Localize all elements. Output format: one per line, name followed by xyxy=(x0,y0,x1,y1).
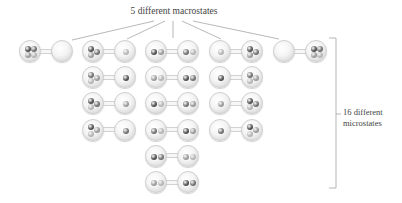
microstate-dumbbell xyxy=(209,66,263,88)
particle-mid-light xyxy=(94,75,100,81)
particle-mid-light xyxy=(158,49,164,55)
particle-light xyxy=(218,49,224,55)
particle-mid-light xyxy=(151,75,157,81)
particle-light xyxy=(158,101,164,107)
filled-left-sphere xyxy=(19,40,41,62)
particle-mid-dark xyxy=(253,49,259,55)
particle-mid-light xyxy=(253,75,259,81)
particle-light xyxy=(247,131,253,137)
particle-mid-light xyxy=(88,52,94,58)
filled-right-sphere xyxy=(177,145,199,167)
particle-light xyxy=(31,52,37,58)
particle-mid-light xyxy=(253,127,259,133)
particle-mid-light xyxy=(190,101,196,107)
filled-left-sphere xyxy=(82,40,104,62)
particle-mid-dark xyxy=(183,49,189,55)
particle-mid-dark xyxy=(183,101,189,107)
particle-mid-dark xyxy=(158,154,164,160)
microstates-bracket xyxy=(329,38,336,188)
filled-left-sphere xyxy=(145,171,167,193)
particle-light xyxy=(247,78,253,84)
particle-mid-dark xyxy=(123,128,129,134)
filled-left-sphere xyxy=(145,40,167,62)
microstate-dumbbell xyxy=(145,92,199,114)
particle-light xyxy=(247,104,253,110)
microstates-label: 16 different microstates xyxy=(343,107,383,129)
particle-mid-dark xyxy=(151,128,157,134)
microstate-dumbbell xyxy=(273,40,327,62)
microstate-dumbbell xyxy=(145,119,199,141)
particle-mid-light xyxy=(190,128,196,134)
particle-dark xyxy=(151,101,157,107)
filled-right-sphere xyxy=(241,119,263,141)
microstate-dumbbell xyxy=(82,119,136,141)
particle-mid-dark xyxy=(94,49,100,55)
filled-right-sphere xyxy=(114,40,136,62)
particle-dark xyxy=(183,128,189,134)
connector-line-5 xyxy=(193,21,279,39)
particle-mid-dark xyxy=(31,46,37,52)
microstate-dumbbell xyxy=(82,66,136,88)
particle-dark xyxy=(123,75,129,81)
filled-left-sphere xyxy=(209,119,231,141)
filled-right-sphere xyxy=(177,119,199,141)
microstate-dumbbell xyxy=(82,40,136,62)
particle-light xyxy=(88,104,94,110)
filled-right-sphere xyxy=(114,119,136,141)
particle-light xyxy=(190,154,196,160)
microstate-dumbbell xyxy=(209,92,263,114)
filled-right-sphere xyxy=(177,92,199,114)
microstate-dumbbell xyxy=(145,66,199,88)
empty-right-sphere xyxy=(51,40,73,62)
particle-light xyxy=(190,49,196,55)
particle-mid-light xyxy=(218,101,224,107)
filled-left-sphere xyxy=(209,66,231,88)
filled-left-sphere xyxy=(145,145,167,167)
filled-right-sphere xyxy=(114,92,136,114)
filled-left-sphere xyxy=(82,66,104,88)
particle-mid-dark xyxy=(94,101,100,107)
connector-line-2 xyxy=(127,21,165,39)
particle-dark xyxy=(151,49,157,55)
empty-left-sphere xyxy=(273,40,295,62)
particle-mid-light xyxy=(247,52,253,58)
microstate-dumbbell xyxy=(145,145,199,167)
filled-left-sphere xyxy=(82,119,104,141)
filled-right-sphere xyxy=(241,66,263,88)
particle-light xyxy=(88,131,94,137)
particle-mid-dark xyxy=(317,46,323,52)
microstates-label-line2: microstates xyxy=(343,118,383,129)
particle-light xyxy=(158,75,164,81)
particle-dark xyxy=(218,75,224,81)
filled-left-sphere xyxy=(209,92,231,114)
filled-right-sphere xyxy=(305,40,327,62)
particle-dark xyxy=(151,154,157,160)
filled-right-sphere xyxy=(177,171,199,193)
filled-left-sphere xyxy=(82,92,104,114)
particle-mid-dark xyxy=(253,101,259,107)
particle-mid-dark xyxy=(190,180,196,186)
particle-mid-light xyxy=(183,154,189,160)
connector-lines xyxy=(0,0,402,203)
particle-dark xyxy=(183,180,189,186)
particle-mid-light xyxy=(151,180,157,186)
connector-line-4 xyxy=(182,21,221,39)
microstate-dumbbell xyxy=(145,40,199,62)
particle-light xyxy=(123,49,129,55)
particle-dark xyxy=(183,75,189,81)
particle-light xyxy=(158,128,164,134)
particle-light xyxy=(317,52,323,58)
particle-mid-light xyxy=(123,101,129,107)
microstate-dumbbell xyxy=(82,92,136,114)
filled-right-sphere xyxy=(177,40,199,62)
microstate-dumbbell xyxy=(209,40,263,62)
filled-left-sphere xyxy=(145,119,167,141)
filled-right-sphere xyxy=(241,40,263,62)
filled-right-sphere xyxy=(241,92,263,114)
microstate-dumbbell xyxy=(19,40,73,62)
microstate-dumbbell xyxy=(145,171,199,193)
particle-light xyxy=(88,78,94,84)
particle-mid-dark xyxy=(190,75,196,81)
filled-left-sphere xyxy=(145,66,167,88)
microstate-dumbbell xyxy=(209,119,263,141)
